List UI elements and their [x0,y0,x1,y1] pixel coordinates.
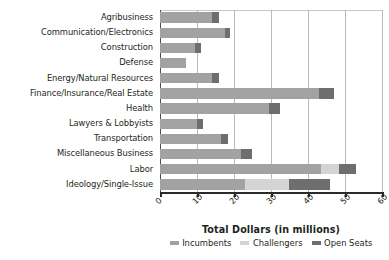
x-tick-label: 40 [301,192,315,206]
bar-segment-incumbents [160,149,241,159]
x-tick-label: 0 [153,195,164,206]
bar-segment-incumbents [160,103,269,113]
y-axis-label: Health [0,101,158,116]
bar-row [160,103,280,113]
bar-row [160,73,219,83]
legend-label: Challengers [253,238,303,248]
bar-row [160,134,228,144]
bar-row [160,12,219,22]
plot-area [160,10,382,192]
y-axis-label: Agribusiness [0,10,158,25]
x-tick-label: 60 [375,192,389,206]
bar-segment-open-seats [225,28,231,38]
legend-label: Incumbents [182,238,231,248]
legend-swatch-icon [240,241,249,245]
bar-segment-incumbents [160,134,221,144]
bar-segment-incumbents [160,12,212,22]
bars-layer [160,10,382,192]
legend-swatch-icon [312,241,321,245]
bar-segment-incumbents [160,73,212,83]
legend-item: Challengers [240,238,302,248]
y-axis-label: Communication/Electronics [0,25,158,40]
bar-row [160,179,330,189]
gridline [382,10,383,192]
x-axis-title: Total Dollars (in millions) [160,224,382,235]
bar-segment-open-seats [221,134,228,144]
bar-segment-open-seats [269,103,280,113]
legend-label: Open Seats [324,238,372,248]
y-axis-label: Finance/Insurance/Real Estate [0,86,158,101]
chart-legend: IncumbentsChallengersOpen Seats [160,238,382,248]
y-axis-label: Transportation [0,131,158,146]
bar-segment-open-seats [319,88,334,98]
y-axis-label: Miscellaneous Business [0,146,158,161]
bar-segment-open-seats [241,149,252,159]
x-tick-label: 50 [338,192,352,206]
legend-item: Open Seats [312,238,373,248]
bar-segment-open-seats [195,43,201,53]
bar-segment-open-seats [197,119,203,129]
legend-swatch-icon [170,241,179,245]
bar-segment-incumbents [160,58,186,68]
y-axis-label: Energy/Natural Resources [0,71,158,86]
bar-row [160,164,356,174]
bar-row [160,28,230,38]
bar-segment-incumbents [160,43,195,53]
legend-item: Incumbents [170,238,232,248]
x-tick-label: 30 [264,192,278,206]
y-axis-label: Labor [0,162,158,177]
x-tick-label: 20 [227,192,241,206]
bar-segment-challengers [321,164,340,174]
y-axis-label: Defense [0,55,158,70]
bar-row [160,43,201,53]
bar-segment-open-seats [212,73,219,83]
bar-segment-challengers [245,179,289,189]
y-axis-label: Lawyers & Lobbyists [0,116,158,131]
bar-segment-open-seats [289,179,330,189]
bar-row [160,58,186,68]
y-axis-category-labels: AgribusinessCommunication/ElectronicsCon… [0,10,158,192]
bar-segment-incumbents [160,164,321,174]
bar-segment-incumbents [160,28,225,38]
bar-row [160,88,334,98]
bar-segment-incumbents [160,88,319,98]
bar-row [160,149,252,159]
y-axis-label: Ideology/Single-Issue [0,177,158,192]
bar-segment-incumbents [160,119,197,129]
bar-segment-incumbents [160,179,245,189]
y-axis-label: Construction [0,40,158,55]
bar-row [160,119,203,129]
x-tick-label: 10 [190,192,204,206]
x-tick [160,192,162,197]
bar-segment-open-seats [212,12,219,22]
bar-segment-open-seats [339,164,356,174]
